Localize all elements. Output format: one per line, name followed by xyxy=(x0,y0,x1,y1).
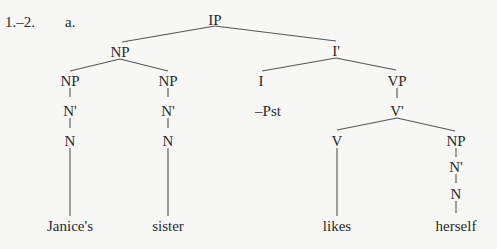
word-sister: sister xyxy=(152,218,184,234)
syntax-tree: 1.–2. a. IP NP I' NP N' N NP N' N I –Pst… xyxy=(0,0,497,249)
node-np-subject: NP xyxy=(110,44,129,60)
node-vp: VP xyxy=(387,73,406,89)
node-n-bar-head: N' xyxy=(161,103,175,119)
node-n-possessor: N xyxy=(65,133,76,149)
word-herself: herself xyxy=(436,218,477,234)
node-np-object: NP xyxy=(446,133,465,149)
word-likes: likes xyxy=(323,218,351,234)
node-ip: IP xyxy=(208,12,221,28)
word-janices: Janice's xyxy=(47,218,93,234)
node-n-bar-possessor: N' xyxy=(63,103,77,119)
example-letter: a. xyxy=(65,14,75,30)
node-n-head: N xyxy=(163,133,174,149)
node-tense: –Pst xyxy=(254,103,282,119)
node-n-object: N xyxy=(451,186,462,202)
node-i: I xyxy=(259,73,264,89)
node-v-bar: V' xyxy=(390,103,404,119)
node-v: V xyxy=(332,133,343,149)
node-n-bar-object: N' xyxy=(449,159,463,175)
node-i-bar: I' xyxy=(332,43,340,59)
node-np-possessor: NP xyxy=(60,73,79,89)
example-number: 1.–2. xyxy=(5,14,35,30)
node-np-head: NP xyxy=(158,73,177,89)
